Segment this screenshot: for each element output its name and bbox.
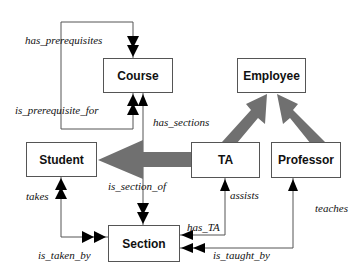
entity-label: Course [117,69,158,83]
isa-arrow-ta-student [98,140,191,179]
arrowhead-icon [193,243,205,253]
label-has-prerequisites: has_prerequisites [25,35,102,46]
arrowhead-icon [127,45,139,57]
entity-label: Student [39,153,84,167]
entity-label: TA [218,153,233,167]
label-is-prerequisite-for: is_prerequisite_for [15,105,99,116]
arrowhead-icon [94,231,106,243]
entity-label: Section [122,237,165,251]
entity-student: Student [26,142,97,177]
label-assists: assists [230,190,259,201]
entity-section: Section [108,225,180,262]
arrowhead-icon [288,179,298,191]
isa-arrow-professor-employee [277,94,325,149]
label-is-taught-by: is_taught_by [213,250,270,261]
label-takes: takes [26,191,49,202]
label-teaches: teaches [315,203,348,214]
entity-label: Employee [243,69,300,83]
arrowhead-icon [181,243,193,253]
label-is-section-of: is_section_of [108,181,166,192]
entity-ta: TA [191,142,260,178]
student-section-line [61,177,108,237]
arrowhead-icon [137,212,149,224]
label-is-taken-by: is_taken_by [38,250,91,261]
label-has-sections: has_sections [153,117,209,128]
arrowhead-icon [82,231,94,243]
arrowhead-icon [220,179,230,191]
entity-professor: Professor [271,142,341,178]
arrowhead-icon [138,94,148,106]
entity-course: Course [103,58,173,93]
isa-arrow-ta-employee [222,94,267,149]
entity-label: Professor [278,153,334,167]
entity-employee: Employee [237,58,306,93]
label-has-ta: has_TA [187,222,220,233]
